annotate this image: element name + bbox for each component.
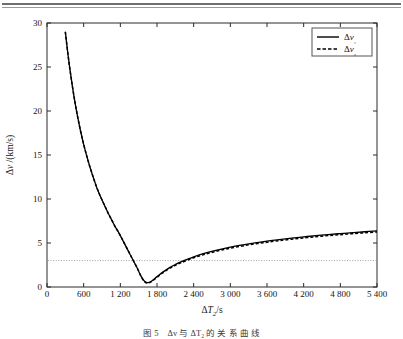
y-tick-label: 15 — [33, 150, 43, 160]
x-tick-label: 3 000 — [220, 289, 241, 299]
figure-caption: 图 5 Δv 与 ΔT₂ 的 关 系 曲 线 — [0, 328, 403, 339]
svg-text:Δv /(km/s): Δv /(km/s) — [5, 135, 16, 175]
rule-thick — [2, 3, 401, 5]
y-axis-title: Δv /(km/s) — [5, 135, 16, 175]
rule-thin — [2, 7, 401, 8]
series-line-1 — [65, 32, 377, 283]
y-tick-label: 20 — [33, 106, 43, 116]
x-tick-label: 4 800 — [330, 289, 351, 299]
x-tick-label: 4 200 — [294, 289, 315, 299]
x-tick-label: 0 — [45, 289, 50, 299]
top-double-rule — [2, 3, 401, 9]
x-tick-label: 1 200 — [110, 289, 131, 299]
chart-figure: 06001 2001 8002 4003 0003 6004 2004 8005… — [0, 10, 403, 333]
line-chart: 06001 2001 8002 4003 0003 6004 2004 8005… — [0, 10, 403, 333]
x-tick-label: 3 600 — [257, 289, 278, 299]
legend: Δv₁Δv₂ — [312, 28, 372, 57]
y-tick-label: 0 — [38, 282, 43, 292]
legend-box — [312, 28, 372, 56]
y-tick-label: 30 — [33, 18, 43, 28]
y-tick-label: 10 — [33, 194, 43, 204]
y-tick-label: 5 — [38, 238, 43, 248]
x-tick-label: 600 — [77, 289, 91, 299]
x-axis-title: ΔT2/s — [201, 305, 223, 318]
plot-frame — [47, 23, 377, 287]
y-tick-label: 25 — [33, 62, 43, 72]
x-tick-label: 1 800 — [147, 289, 168, 299]
x-tick-label: 2 400 — [184, 289, 205, 299]
x-tick-label: 5 400 — [367, 289, 388, 299]
series-line-2 — [65, 32, 377, 283]
